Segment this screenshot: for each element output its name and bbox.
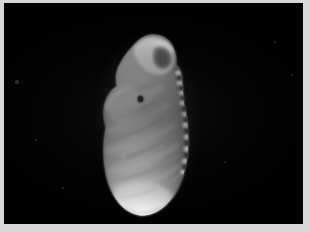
basal-lobe	[112, 182, 172, 216]
dust-speck	[224, 161, 226, 163]
dust-speck	[62, 187, 64, 189]
dust-speck	[35, 139, 37, 141]
surface-pore	[138, 96, 143, 102]
dust-speck	[274, 41, 277, 44]
photographic-field	[4, 3, 303, 224]
dust-speck	[15, 80, 18, 83]
photomicrograph-plate	[0, 0, 310, 232]
dust-speck	[291, 74, 293, 76]
specimen-foraminifera-test	[96, 33, 204, 221]
specimen-outline-graphic	[96, 33, 204, 221]
